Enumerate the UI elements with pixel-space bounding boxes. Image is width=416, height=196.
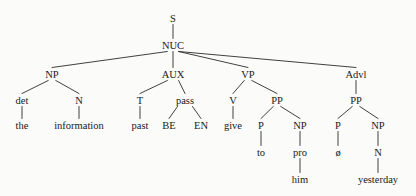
tree-edge-PP1-to-P1	[261, 107, 273, 119]
tree-node-information: information	[54, 120, 104, 131]
tree-node-S: S	[170, 13, 176, 24]
tree-node-NP3: NP	[371, 120, 385, 131]
tree-node-T: T	[137, 95, 144, 106]
tree-edge-NP1-to-det	[22, 81, 48, 94]
tree-edge-VP-to-PP1	[252, 81, 277, 94]
tree-node-pro: pro	[293, 147, 307, 158]
tree-node-N1: N	[75, 95, 83, 106]
tree-edge-NUC-to-NP1	[52, 52, 167, 68]
tree-node-NP1: NP	[45, 69, 59, 80]
tree-node-EN: EN	[194, 120, 208, 131]
tree-edge-AUX-to-pass	[179, 81, 185, 94]
tree-node-VP: VP	[241, 69, 255, 80]
tree-edge-PP2-to-P2	[338, 107, 352, 119]
tree-edge-AUX-to-T	[140, 81, 167, 94]
tree-diagram-canvas: SNUCNPdetNtheinformationAUXTpasspastBEEN…	[0, 0, 416, 196]
tree-node-yesterday: yesterday	[358, 174, 399, 185]
tree-edge-NUC-to-VP	[179, 52, 248, 68]
phrase-structure-tree-figure: SNUCNPdetNtheinformationAUXTpasspastBEEN…	[0, 0, 416, 196]
tree-node-give: give	[224, 120, 242, 131]
tree-edge-pass-to-EN	[193, 107, 202, 119]
tree-node-BE: BE	[162, 120, 175, 131]
tree-node-the: the	[16, 120, 29, 131]
tree-edge-NUC-to-Advl	[179, 52, 356, 68]
tree-node-PP1: PP	[271, 95, 283, 106]
tree-node-NUC: NUC	[162, 40, 184, 51]
tree-node-Advl: Advl	[346, 69, 367, 80]
tree-node-layer: SNUCNPdetNtheinformationAUXTpasspastBEEN…	[16, 13, 399, 185]
tree-node-him: him	[292, 174, 308, 185]
tree-node-PP2: PP	[350, 95, 362, 106]
tree-node-det: det	[16, 95, 29, 106]
tree-edge-PP2-to-NP3	[360, 107, 378, 119]
tree-node-to: to	[257, 147, 265, 158]
tree-edge-VP-to-V	[233, 81, 244, 94]
tree-node-NP2: NP	[293, 120, 307, 131]
tree-node-null: ø	[335, 147, 340, 158]
tree-edge-pass-to-BE	[169, 107, 178, 119]
tree-node-P2: P	[335, 120, 341, 131]
tree-node-V: V	[229, 95, 237, 106]
tree-node-past: past	[132, 120, 149, 131]
tree-node-N2: N	[374, 147, 382, 158]
tree-node-P1: P	[258, 120, 264, 131]
tree-edge-NP1-to-N1	[56, 81, 79, 94]
tree-node-AUX: AUX	[162, 69, 185, 80]
tree-edge-PP1-to-NP2	[281, 107, 300, 119]
tree-node-pass: pass	[176, 95, 194, 106]
